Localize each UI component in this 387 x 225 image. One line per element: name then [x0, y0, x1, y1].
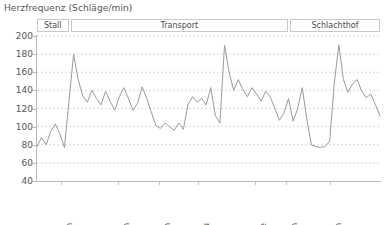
y-tick-label: 180	[3, 49, 33, 59]
y-tick-label: 80	[3, 140, 33, 150]
y-tick-label: 40	[3, 176, 33, 186]
phase-band-schlachthof: Schlachthof	[290, 19, 380, 32]
x-tick-mark	[198, 182, 199, 185]
y-tick-label: 60	[3, 158, 33, 168]
y-tick-label: 140	[3, 85, 33, 95]
x-axis-labels: BeladenAnhaltenkurvenreichStauFahrtendeE…	[37, 182, 380, 225]
heart-rate-chart: Herzfrequenz (Schläge/min) StallTranspor…	[0, 0, 387, 225]
y-tick-label: 200	[3, 31, 33, 41]
phase-band-label: Stall	[44, 21, 62, 30]
x-tick-mark	[286, 182, 287, 185]
y-tick-label: 160	[3, 67, 33, 77]
x-tick-label: Fahrtende	[259, 223, 268, 225]
x-tick-mark	[118, 182, 119, 185]
x-tick-label: Entladen	[290, 223, 299, 225]
x-tick-mark	[330, 182, 331, 185]
x-tick-label: Stau	[202, 223, 211, 225]
x-tick-mark	[255, 182, 256, 185]
y-axis-ticks: 200180160140120100806040	[0, 36, 33, 181]
phase-band-transport: Transport	[71, 19, 288, 32]
x-tick-mark	[61, 182, 62, 185]
x-tick-label: Anhalten	[122, 223, 131, 225]
series-line	[37, 36, 380, 181]
y-tick-label: 120	[3, 104, 33, 114]
heart-rate-polyline	[37, 45, 380, 147]
chart-title: Herzfrequenz (Schläge/min)	[4, 3, 132, 13]
x-tick-mark	[159, 182, 160, 185]
phase-band-label: Schlachthof	[312, 21, 359, 30]
x-tick-label: kurvenreich	[163, 223, 172, 225]
x-tick-label: Beladen	[65, 223, 74, 225]
phase-band-header: StallTransportSchlachthof	[37, 19, 380, 32]
x-tick-label: Kämpfen	[334, 223, 343, 225]
plot-area	[37, 36, 380, 181]
phase-band-stall: Stall	[37, 19, 69, 32]
y-tick-label: 100	[3, 122, 33, 132]
phase-band-label: Transport	[161, 21, 199, 30]
